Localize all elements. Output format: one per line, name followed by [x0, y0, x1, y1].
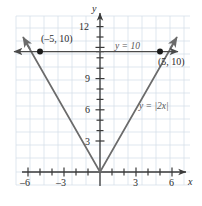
y-axis [96, 13, 105, 186]
x-tick-label-minus3: –3 [56, 177, 66, 188]
point-label-5-10: (5, 10) [158, 56, 185, 67]
equation-label-abs-2x: y = |2x| [139, 101, 169, 111]
x-tick-label-minus6: –6 [20, 177, 30, 188]
point-label-minus5-10: (–5, 10) [41, 33, 73, 44]
graph-figure: 12 9 6 3 –6 –3 3 6 y x (–5, 10) (5, 10) … [0, 0, 202, 206]
equation-label-y-10: y = 10 [115, 41, 140, 51]
y-tick-label-6: 6 [85, 104, 90, 115]
coordinate-plane-svg [0, 0, 202, 206]
y-axis-label: y [92, 3, 96, 14]
point-5-10 [157, 49, 163, 55]
x-tick-label-6: 6 [169, 177, 174, 188]
point-minus5-10 [37, 49, 43, 55]
x-axis [22, 168, 186, 177]
y-tick-label-3: 3 [85, 136, 90, 147]
y-tick-label-12: 12 [79, 21, 89, 32]
y-tick-label-9: 9 [85, 73, 90, 84]
x-tick-label-3: 3 [133, 177, 138, 188]
x-axis-label: x [188, 176, 192, 187]
